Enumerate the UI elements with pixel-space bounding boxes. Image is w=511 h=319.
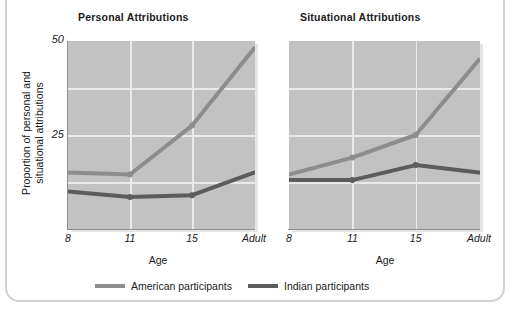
x-tick-label: 11 [110, 232, 150, 244]
x-axis-line-personal [67, 229, 255, 230]
data-point [189, 123, 195, 129]
data-point [413, 162, 419, 168]
x-tick-label: 15 [396, 232, 436, 244]
legend-item-american[interactable]: American participants [95, 280, 232, 292]
data-point [349, 155, 355, 161]
plot-area-situational [289, 41, 480, 229]
chart-title-situational: Situational Attributions [300, 11, 421, 23]
x-axis-line-situational [288, 229, 480, 230]
data-point [127, 194, 133, 200]
x-tick-label: 8 [48, 232, 88, 244]
y-tick-label-25: 25 [40, 128, 64, 140]
x-tick-label: 15 [172, 232, 212, 244]
legend-swatch-indian [248, 284, 278, 288]
plot-area-personal [68, 41, 255, 229]
x-axis-label-personal: Age [118, 254, 198, 266]
series-layer [68, 41, 255, 229]
data-point [349, 177, 355, 183]
x-tick-label: Adult [459, 232, 499, 244]
series-line-american [289, 60, 479, 175]
legend-label-american: American participants [131, 280, 232, 292]
x-tick-label: Adult [234, 232, 274, 244]
legend-label-indian: Indian participants [284, 280, 369, 292]
legend: American participantsIndian participants [95, 280, 369, 292]
chart-title-personal: Personal Attributions [78, 11, 189, 23]
legend-item-indian[interactable]: Indian participants [248, 280, 369, 292]
data-point [127, 171, 133, 177]
series-line-american [68, 49, 254, 175]
legend-swatch-american [95, 284, 125, 288]
y-tick-label-50: 50 [40, 33, 64, 45]
series-line-indian [68, 173, 254, 197]
series-layer [289, 41, 480, 229]
y-axis-label-line1: Proportion of personal and [20, 71, 32, 195]
x-axis-label-situational: Age [345, 254, 425, 266]
y-axis-line-personal [67, 41, 68, 229]
x-tick-label: 8 [269, 232, 309, 244]
data-point [413, 132, 419, 138]
x-tick-label: 11 [332, 232, 372, 244]
data-point [189, 192, 195, 198]
